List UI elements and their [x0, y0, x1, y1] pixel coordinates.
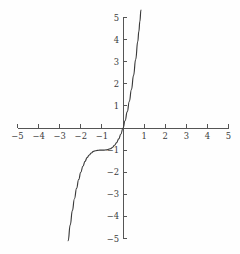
- y-tick-label: −3: [107, 189, 119, 199]
- x-tick-label: 2: [163, 131, 168, 141]
- x-tick-label: −2: [75, 131, 87, 141]
- x-tick-label: 3: [184, 131, 189, 141]
- x-tick-label: 5: [226, 131, 231, 141]
- x-tick-label: −4: [32, 131, 44, 141]
- plot-canvas: −5−4−3−2−112345−5−4−3−2−112345: [0, 0, 240, 254]
- x-tick-label: 1: [141, 131, 146, 141]
- plot-figure: −5−4−3−2−112345−5−4−3−2−112345: [0, 0, 240, 254]
- curve-line: [68, 10, 141, 241]
- y-tick-label: 3: [114, 57, 119, 67]
- y-tick-label: 5: [114, 13, 119, 23]
- x-tick-label: −3: [54, 131, 66, 141]
- y-tick-label: −5: [107, 234, 119, 244]
- function-curve: [68, 10, 141, 241]
- y-tick-label: 4: [114, 35, 119, 45]
- x-tick-label: 4: [205, 131, 210, 141]
- y-tick-label: 1: [114, 101, 119, 111]
- y-tick-label: −4: [107, 211, 119, 221]
- x-tick-label: −1: [96, 131, 108, 141]
- x-tick-label: −5: [11, 131, 23, 141]
- y-tick-label: 2: [114, 79, 119, 89]
- y-tick-label: −2: [107, 167, 119, 177]
